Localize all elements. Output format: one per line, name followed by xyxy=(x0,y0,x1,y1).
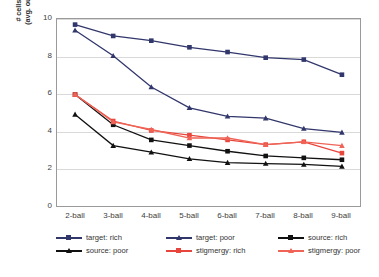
data-point xyxy=(263,55,268,60)
y-tick-label: 0 xyxy=(30,201,52,210)
series-line xyxy=(75,95,342,160)
y-tick-label: 10 xyxy=(30,13,52,22)
series-line xyxy=(75,30,342,132)
x-tick-label: 2-ball xyxy=(55,211,95,220)
legend-swatch-square-icon xyxy=(166,246,192,255)
x-tick-label: 8-ball xyxy=(283,211,323,220)
data-series-layer xyxy=(56,18,361,207)
x-tick-label: 7-ball xyxy=(245,211,285,220)
data-point xyxy=(187,143,192,148)
legend-swatch-triangle-icon xyxy=(278,246,304,255)
series-line xyxy=(75,25,342,75)
legend-item-target-rich[interactable]: target: rich xyxy=(56,233,166,242)
data-point xyxy=(149,138,154,143)
legend-label: target: rich xyxy=(86,233,122,242)
x-tick-label: 9-ball xyxy=(321,211,361,220)
legend-label: source: poor xyxy=(86,246,128,255)
data-point xyxy=(340,72,345,77)
y-tick-label: 8 xyxy=(30,51,52,60)
chart-legend: target: rich target: poor source: rich xyxy=(56,233,366,259)
legend-swatch-square-icon xyxy=(278,233,304,242)
legend-item-target-poor[interactable]: target: poor xyxy=(166,233,278,242)
legend-swatch-triangle-icon xyxy=(56,246,82,255)
legend-item-stigmergy-poor[interactable]: stigmergy: poor xyxy=(278,246,360,255)
data-point xyxy=(263,154,268,159)
data-point xyxy=(187,105,193,110)
x-tick-label: 4-ball xyxy=(131,211,171,220)
series-stigmergy-poor xyxy=(72,92,344,148)
chart-container: # cells alive, if alive (avg. out of 100… xyxy=(0,0,379,277)
x-tick-label: 3-ball xyxy=(93,211,133,220)
legend-row: source: poor stigmergy: rich stigmergy: … xyxy=(56,246,366,255)
legend-swatch-triangle-icon xyxy=(166,233,192,242)
data-point xyxy=(340,157,345,162)
data-point xyxy=(72,27,78,32)
legend-swatch-square-icon xyxy=(56,233,82,242)
data-point xyxy=(72,112,78,117)
y-tick-label: 2 xyxy=(30,163,52,172)
data-point xyxy=(187,45,192,50)
y-tick-label: 6 xyxy=(30,88,52,97)
data-point xyxy=(302,57,307,62)
data-point xyxy=(149,38,154,43)
legend-item-source-poor[interactable]: source: poor xyxy=(56,246,166,255)
x-tick-label: 6-ball xyxy=(207,211,247,220)
legend-label: stigmergy: poor xyxy=(308,246,360,255)
legend-row: target: rich target: poor source: rich xyxy=(56,233,366,242)
data-point xyxy=(340,151,345,156)
legend-label: target: poor xyxy=(196,233,235,242)
data-point xyxy=(111,34,116,39)
x-tick-label: 5-ball xyxy=(169,211,209,220)
y-tick-label: 4 xyxy=(30,126,52,135)
data-point xyxy=(302,156,307,161)
series-target-rich xyxy=(73,22,344,77)
legend-label: stigmergy: rich xyxy=(196,246,245,255)
legend-label: source: rich xyxy=(308,233,347,242)
series-target-poor xyxy=(72,27,344,134)
data-point xyxy=(225,149,230,154)
data-point xyxy=(73,22,78,27)
data-point xyxy=(225,50,230,55)
legend-item-source-rich[interactable]: source: rich xyxy=(278,233,347,242)
legend-item-stigmergy-rich[interactable]: stigmergy: rich xyxy=(166,246,278,255)
